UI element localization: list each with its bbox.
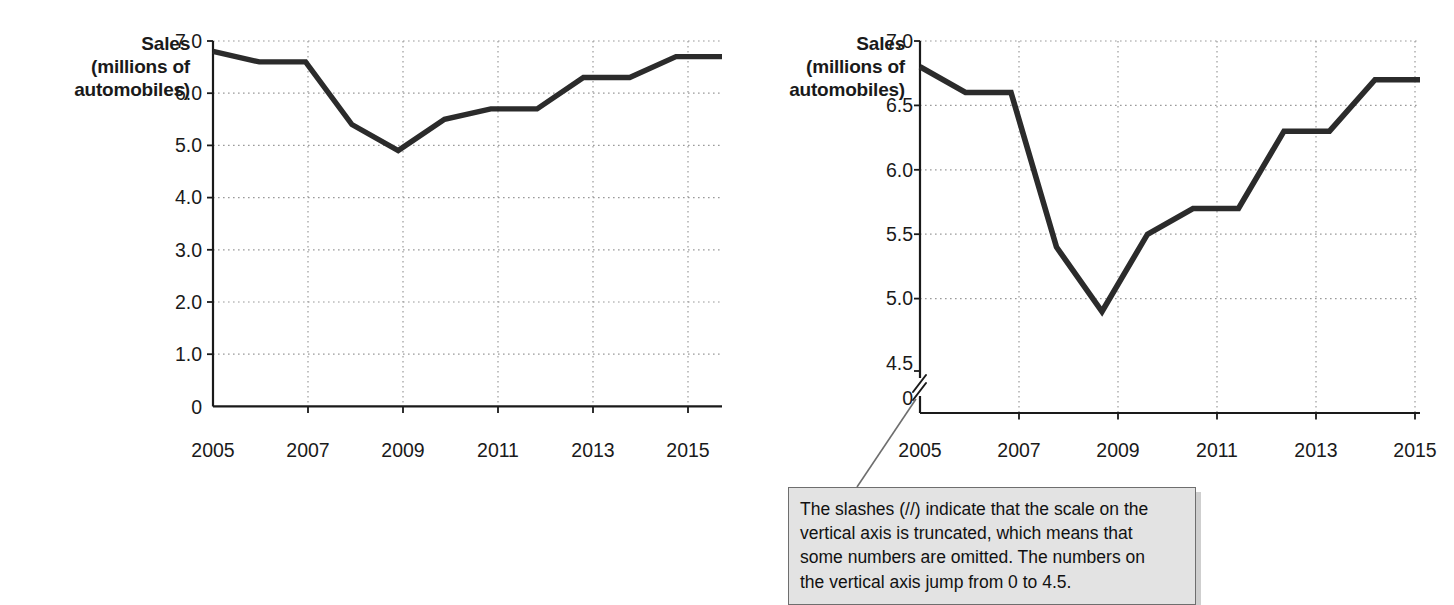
callout-line-2: vertical axis is truncated, which means … (800, 521, 1185, 545)
right-chart-panel: Sales (millions of automobiles) 7.0 6.5 … (730, 0, 1454, 601)
callout-line-4: the vertical axis jump from 0 to 4.5. (800, 570, 1185, 594)
axis-truncation-callout: The slashes (//) indicate that the scale… (788, 487, 1196, 605)
left-horizontal-gridlines (213, 41, 722, 354)
callout-leader-line (857, 399, 916, 487)
left-data-series-line (213, 51, 722, 150)
left-chart-plot (0, 0, 730, 601)
right-horizontal-gridlines (920, 41, 1420, 299)
left-vertical-gridlines (308, 41, 688, 406)
callout-line-3: some numbers are omitted. The numbers on (800, 545, 1185, 569)
left-chart-panel: Sales (millions of automobiles) 7.0 6.0 … (0, 0, 730, 601)
right-data-series-line (920, 67, 1420, 312)
right-vertical-gridlines (1019, 41, 1415, 413)
callout-line-1: The slashes (//) indicate that the scale… (800, 497, 1185, 521)
